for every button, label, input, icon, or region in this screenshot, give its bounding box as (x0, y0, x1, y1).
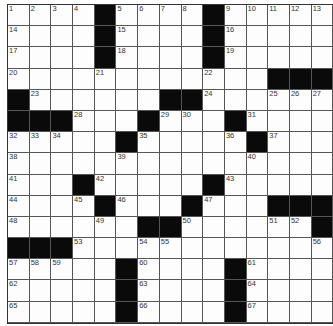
grid-cell[interactable]: 12 (290, 5, 312, 26)
grid-cell[interactable] (30, 217, 52, 238)
grid-cell[interactable]: 4 (73, 5, 95, 26)
grid-cell[interactable] (138, 90, 160, 111)
grid-cell[interactable]: 46 (116, 196, 138, 217)
grid-cell[interactable] (182, 238, 204, 259)
grid-cell[interactable] (247, 47, 269, 68)
grid-cell[interactable] (73, 280, 95, 301)
grid-cell[interactable]: 10 (247, 5, 269, 26)
grid-cell[interactable] (203, 153, 225, 174)
grid-cell[interactable] (268, 302, 290, 323)
grid-cell[interactable]: 56 (312, 238, 333, 259)
grid-cell[interactable] (51, 280, 73, 301)
grid-cell[interactable] (290, 280, 312, 301)
grid-cell[interactable]: 24 (203, 90, 225, 111)
grid-cell[interactable] (73, 217, 95, 238)
grid-cell[interactable] (138, 26, 160, 47)
grid-cell[interactable] (30, 47, 52, 68)
grid-cell[interactable] (312, 111, 333, 132)
grid-cell[interactable]: 44 (8, 196, 30, 217)
grid-cell[interactable] (73, 69, 95, 90)
grid-cell[interactable] (182, 280, 204, 301)
grid-cell[interactable] (290, 259, 312, 280)
grid-cell[interactable] (116, 111, 138, 132)
grid-cell[interactable] (312, 132, 333, 153)
grid-cell[interactable]: 31 (247, 111, 269, 132)
grid-cell[interactable] (51, 217, 73, 238)
grid-cell[interactable]: 14 (8, 26, 30, 47)
grid-cell[interactable]: 45 (73, 196, 95, 217)
grid-cell[interactable]: 59 (51, 259, 73, 280)
grid-cell[interactable]: 11 (268, 5, 290, 26)
grid-cell[interactable] (116, 238, 138, 259)
grid-cell[interactable]: 32 (8, 132, 30, 153)
grid-cell[interactable]: 36 (225, 132, 247, 153)
grid-cell[interactable] (247, 175, 269, 196)
grid-cell[interactable]: 52 (290, 217, 312, 238)
grid-cell[interactable] (95, 132, 117, 153)
grid-cell[interactable] (225, 69, 247, 90)
grid-cell[interactable] (225, 90, 247, 111)
grid-cell[interactable] (290, 238, 312, 259)
grid-cell[interactable] (160, 302, 182, 323)
grid-cell[interactable]: 57 (8, 259, 30, 280)
grid-cell[interactable]: 2 (30, 5, 52, 26)
grid-cell[interactable]: 27 (312, 90, 333, 111)
grid-cell[interactable]: 20 (8, 69, 30, 90)
grid-cell[interactable] (116, 175, 138, 196)
grid-cell[interactable] (160, 47, 182, 68)
grid-cell[interactable] (51, 90, 73, 111)
grid-cell[interactable] (30, 196, 52, 217)
grid-cell[interactable] (51, 69, 73, 90)
grid-cell[interactable]: 58 (30, 259, 52, 280)
grid-cell[interactable]: 55 (160, 238, 182, 259)
grid-cell[interactable] (116, 217, 138, 238)
grid-cell[interactable] (95, 238, 117, 259)
grid-cell[interactable]: 67 (247, 302, 269, 323)
grid-cell[interactable] (268, 175, 290, 196)
grid-cell[interactable]: 8 (182, 5, 204, 26)
grid-cell[interactable]: 33 (30, 132, 52, 153)
grid-cell[interactable] (30, 26, 52, 47)
grid-cell[interactable]: 22 (203, 69, 225, 90)
grid-cell[interactable]: 26 (290, 90, 312, 111)
grid-cell[interactable] (30, 175, 52, 196)
grid-cell[interactable] (312, 153, 333, 174)
grid-cell[interactable]: 21 (95, 69, 117, 90)
grid-cell[interactable] (312, 26, 333, 47)
grid-cell[interactable] (247, 217, 269, 238)
grid-cell[interactable] (203, 259, 225, 280)
grid-cell[interactable]: 9 (225, 5, 247, 26)
grid-cell[interactable] (312, 47, 333, 68)
grid-cell[interactable] (116, 90, 138, 111)
grid-cell[interactable] (290, 47, 312, 68)
grid-cell[interactable]: 35 (138, 132, 160, 153)
grid-cell[interactable] (138, 69, 160, 90)
grid-cell[interactable] (160, 175, 182, 196)
grid-cell[interactable] (247, 238, 269, 259)
grid-cell[interactable]: 13 (312, 5, 333, 26)
grid-cell[interactable] (247, 26, 269, 47)
grid-cell[interactable] (312, 302, 333, 323)
grid-cell[interactable] (203, 280, 225, 301)
grid-cell[interactable] (268, 47, 290, 68)
grid-cell[interactable]: 16 (225, 26, 247, 47)
grid-cell[interactable] (312, 175, 333, 196)
grid-cell[interactable] (116, 69, 138, 90)
grid-cell[interactable] (160, 259, 182, 280)
grid-cell[interactable]: 38 (8, 153, 30, 174)
grid-cell[interactable] (73, 132, 95, 153)
grid-cell[interactable] (182, 132, 204, 153)
grid-cell[interactable]: 6 (138, 5, 160, 26)
grid-cell[interactable] (51, 153, 73, 174)
grid-cell[interactable]: 25 (268, 90, 290, 111)
grid-cell[interactable] (290, 175, 312, 196)
grid-cell[interactable] (160, 26, 182, 47)
grid-cell[interactable] (30, 280, 52, 301)
grid-cell[interactable] (290, 26, 312, 47)
grid-cell[interactable] (160, 153, 182, 174)
grid-cell[interactable] (160, 132, 182, 153)
grid-cell[interactable] (30, 153, 52, 174)
grid-cell[interactable] (51, 47, 73, 68)
grid-cell[interactable] (182, 153, 204, 174)
grid-cell[interactable] (95, 111, 117, 132)
